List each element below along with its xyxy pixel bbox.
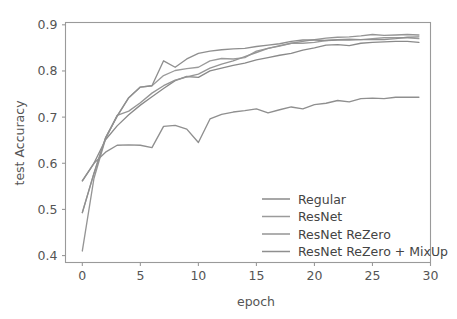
- x-tick-label: 5: [136, 268, 144, 283]
- legend-label: ResNet ReZero + MixUp: [298, 244, 448, 259]
- y-tick-label: 0.6: [38, 156, 58, 171]
- figure-canvas: 051015202530 0.40.50.60.70.80.9 epoch te…: [0, 0, 457, 319]
- y-axis-label: test Accuracy: [12, 100, 27, 186]
- x-tick-label: 10: [190, 268, 206, 283]
- chart-legend: RegularResNetResNet ReZeroResNet ReZero …: [262, 192, 448, 260]
- series-line: [82, 41, 419, 180]
- x-tick-label: 30: [423, 268, 439, 283]
- y-tick-label: 0.4: [38, 248, 58, 263]
- x-tick-label: 0: [78, 268, 86, 283]
- legend-label: Regular: [298, 192, 347, 207]
- legend-label: ResNet: [298, 209, 342, 224]
- y-tick-label: 0.9: [38, 17, 58, 32]
- x-tick-label: 15: [248, 268, 264, 283]
- x-axis-label: epoch: [237, 294, 275, 309]
- x-tick-labels: 051015202530: [78, 268, 438, 283]
- y-tick-label: 0.7: [38, 110, 58, 125]
- y-tick-label: 0.8: [38, 63, 58, 78]
- series-line: [82, 38, 419, 213]
- series-line: [82, 37, 419, 213]
- y-tick-label: 0.5: [38, 202, 58, 217]
- series-line: [82, 97, 419, 181]
- data-series-group: [82, 35, 419, 251]
- x-tick-label: 20: [306, 268, 322, 283]
- line-chart: 051015202530 0.40.50.60.70.80.9 epoch te…: [0, 0, 457, 319]
- series-line: [82, 35, 419, 251]
- y-tick-labels: 0.40.50.60.70.80.9: [38, 17, 58, 263]
- x-tick-label: 25: [365, 268, 381, 283]
- legend-label: ResNet ReZero: [298, 227, 391, 242]
